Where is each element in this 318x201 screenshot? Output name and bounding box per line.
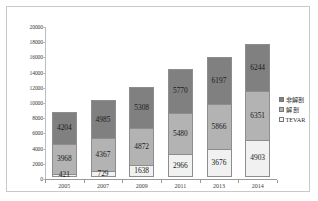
bar-value-label: 3676 [212,159,227,167]
y-tick-label: 4000 [9,146,43,152]
x-tick-label: 2009 [122,183,162,190]
y-tick-label: 8000 [9,115,43,121]
plot-area [45,27,270,179]
bar-segment[interactable]: 1638 [129,165,154,177]
bar-value-label: 4204 [57,124,72,132]
bar-segment[interactable]: 5866 [207,104,232,149]
y-tick-label: 6000 [9,130,43,136]
bar-segment[interactable]: 3676 [207,149,232,177]
bar-value-label: 2966 [173,162,188,170]
bar-segment[interactable]: 4367 [91,138,116,171]
bar-segment[interactable]: 4872 [129,128,154,165]
bar-segment[interactable]: 6244 [245,44,270,91]
bar-value-label: 5866 [212,123,227,131]
bar-segment[interactable]: 5770 [168,69,193,113]
bar-segment[interactable]: 6351 [245,91,270,139]
bar-value-label: 6197 [212,77,227,85]
bar-segment[interactable]: 3968 [52,144,77,174]
bar-group[interactable]: 42043968421 [52,112,77,177]
y-axis: 0200040006000800010000120001400016000180… [7,7,43,187]
chart-figure-frame: 0200040006000800010000120001400016000180… [6,6,310,192]
bar-segment[interactable]: 4903 [245,140,270,177]
bar-value-label: 4367 [96,151,111,159]
bar-value-label: 6244 [250,64,265,72]
x-tick-label: 2013 [199,183,239,190]
y-tick-label: 18000 [9,39,43,45]
legend-item[interactable]: 解 剖 [279,105,318,114]
bar-segment[interactable]: 4985 [91,100,116,138]
bar-segment[interactable]: 5480 [168,113,193,155]
bar-segment[interactable]: 5308 [129,87,154,127]
bar-value-label: 5480 [173,130,188,138]
legend-item[interactable]: 非解剖 [279,95,318,104]
legend-swatch-icon [279,97,284,102]
x-tick-label: 2007 [83,183,123,190]
bar-value-label: 729 [97,170,108,178]
x-tick-mark [45,180,46,183]
bar-segment[interactable]: 421 [52,174,77,177]
legend-swatch-icon [279,117,284,122]
bar-value-label: 5308 [134,104,149,112]
bar-value-label: 4903 [250,154,265,162]
bar-group[interactable]: 49854367729 [91,100,116,177]
x-tick-mark [277,180,278,183]
bar-segment[interactable]: 2966 [168,154,193,177]
y-tick-label: 14000 [9,70,43,76]
legend-label: 解 剖 [286,106,300,113]
y-tick-label: 16000 [9,54,43,60]
x-tick-label: 2011 [160,183,200,190]
y-tick-label: 12000 [9,85,43,91]
bar-value-label: 4985 [96,116,111,124]
chart-legend: 非解剖解 剖TEVAR [279,95,318,125]
legend-swatch-icon [279,107,284,112]
legend-item[interactable]: TEVAR [279,115,318,124]
bar-group[interactable]: 619758663676 [207,57,232,177]
bar-value-label: 6351 [250,112,265,120]
y-tick-label: 20000 [9,24,43,30]
y-tick-label: 0 [9,176,43,182]
bar-value-label: 3968 [57,155,72,163]
bar-group[interactable]: 530848721638 [129,87,154,177]
y-tick-label: 2000 [9,161,43,167]
legend-label: 非解剖 [286,96,304,103]
bar-segment[interactable]: 729 [91,171,116,177]
bar-value-label: 4872 [134,143,149,151]
bar-value-label: 421 [59,171,70,179]
bar-value-label: 5770 [173,87,188,95]
bar-group[interactable]: 577054802966 [168,69,193,177]
bar-group[interactable]: 624463514903 [245,44,270,177]
y-tick-label: 10000 [9,100,43,106]
bar-segment[interactable]: 4204 [52,112,77,144]
legend-label: TEVAR [286,116,306,123]
bar-value-label: 1638 [134,167,149,175]
x-tick-label: 2005 [44,183,84,190]
bar-segment[interactable]: 6197 [207,57,232,104]
x-tick-label: 2014 [238,183,278,190]
